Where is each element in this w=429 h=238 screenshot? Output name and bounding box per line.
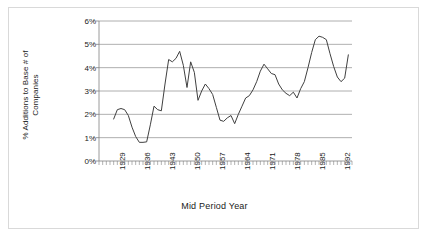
gridlines xyxy=(99,21,352,161)
x-axis-minor-ticks xyxy=(99,161,352,165)
x-axis-title: Mid Period Year xyxy=(0,201,429,211)
y-axis-ticks xyxy=(96,21,99,161)
chart-root: % Additions to Base # of Companies 6% 5%… xyxy=(0,0,429,238)
data-series-line xyxy=(114,36,349,142)
